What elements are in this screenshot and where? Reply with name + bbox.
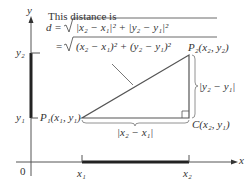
- y2-label: y₂: [16, 47, 25, 58]
- vertical-leg-label: |y₂ − y₁|: [199, 81, 235, 92]
- y-axis-arrow-icon: [29, 16, 34, 23]
- formula-line2-radicand: (x₂ − x₁)² + (y₂ − y₁)²: [76, 40, 171, 52]
- horizontal-leg-label: |x₂ − x₁|: [117, 127, 153, 138]
- right-triangle: [82, 55, 189, 118]
- point-p1-label: P₁(x₁, y₁): [40, 112, 81, 123]
- formula-line1-prefix: d =: [46, 21, 62, 33]
- formula-line1-radicand: |x₂ − x₁|² + |y₂ − y₁|²: [76, 21, 168, 33]
- x-axis-label: x: [239, 155, 244, 166]
- point-p2-label: P₂(x₂, y₂): [188, 42, 229, 53]
- distance-formula-diagram: This distance is d = |x₂ − x₁|² + |y₂ − …: [0, 0, 247, 191]
- right-angle-marker: [182, 111, 189, 118]
- x2-label: x₂: [183, 168, 192, 179]
- y1-label: y₁: [16, 112, 25, 123]
- hypotenuse-pointer: [112, 64, 133, 85]
- vertical-brace: [192, 55, 198, 118]
- x-axis-arrow-icon: [231, 160, 238, 165]
- x1-label: x₁: [77, 168, 86, 179]
- formula-line2-prefix: =: [56, 40, 62, 52]
- point-c-label: C(x₂, y₁): [192, 119, 230, 130]
- y-axis-label: y: [27, 5, 32, 16]
- origin-label: 0: [20, 166, 26, 177]
